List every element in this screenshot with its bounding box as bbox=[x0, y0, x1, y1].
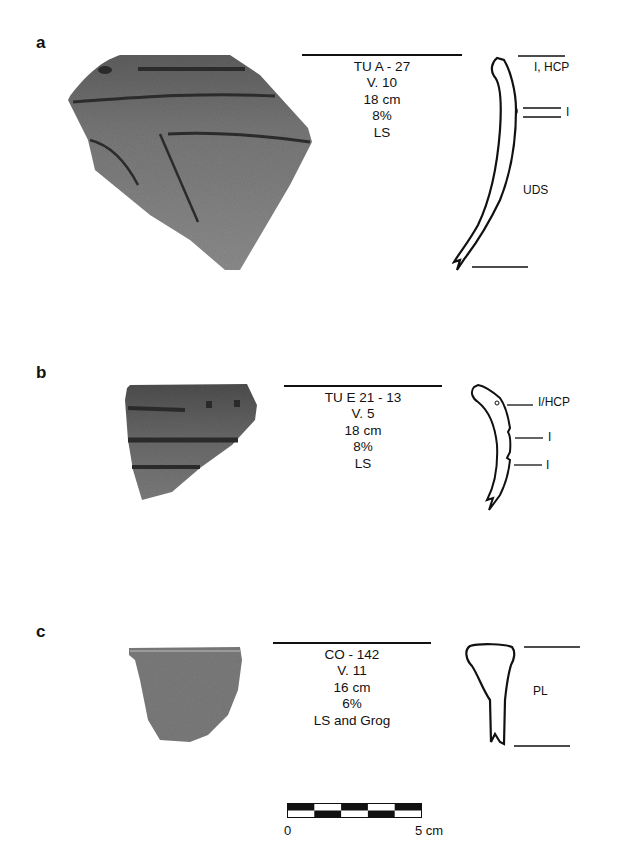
scale-end-label: 5 cm bbox=[415, 823, 443, 838]
scale-start-label: 0 bbox=[284, 823, 291, 838]
profile-label-c-body: PL bbox=[533, 684, 548, 698]
scale-bar bbox=[287, 803, 423, 819]
profile-drawing-c bbox=[0, 0, 622, 860]
